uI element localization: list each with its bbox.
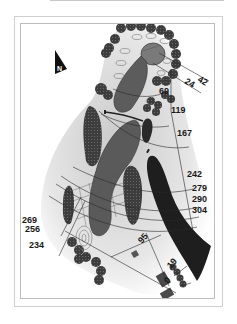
yardage-label-242: 242: [187, 169, 202, 179]
yardage-label-290: 290: [192, 194, 207, 204]
hole-map: N 24 42 69 119 167 242 279 290 304 269 2…: [21, 24, 214, 298]
yardage-label-69: 69: [159, 86, 169, 96]
top-bar: [50, 0, 224, 1]
yardage-label-167: 167: [177, 128, 192, 138]
tee-marker-mid: [104, 110, 106, 114]
yardage-label-119: 119: [171, 105, 186, 115]
yardage-label-234: 234: [29, 240, 44, 250]
yardage-label-256: 256: [25, 224, 40, 234]
yardage-label-279: 279: [192, 183, 207, 193]
yardage-label-42: 42: [196, 74, 210, 88]
yardage-label-304: 304: [192, 205, 207, 215]
map-frame-inner: N 24 42 69 119 167 242 279 290 304 269 2…: [20, 23, 215, 299]
north-label: N: [57, 65, 62, 72]
yardage-label-24: 24: [183, 76, 197, 90]
